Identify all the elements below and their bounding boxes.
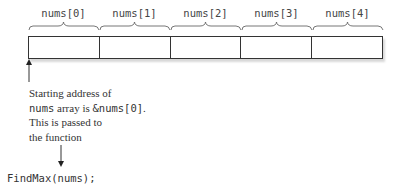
arrow-up-icon: [24, 58, 34, 82]
annotation-line-3: This is passed to: [29, 115, 146, 130]
array-cell-4: [312, 37, 382, 58]
annotation-line-4: the function: [29, 130, 146, 145]
annotation-text: Starting address of nums array is &nums[…: [29, 86, 146, 144]
array-cell-3: [241, 37, 312, 58]
brace-icons: [28, 18, 384, 32]
nums-array: [28, 36, 383, 59]
annotation-period: .: [143, 102, 146, 114]
array-cell-0: [29, 37, 100, 58]
function-call: FindMax(nums);: [7, 172, 96, 184]
annotation-line-2: nums array is &nums[0].: [29, 101, 146, 116]
annotation-text-span: array is: [54, 102, 92, 114]
annotation-line-1: Starting address of: [29, 86, 146, 101]
code-nums: nums: [29, 102, 54, 114]
code-address: &nums[0]: [92, 102, 143, 114]
array-cell-1: [100, 37, 171, 58]
array-cell-2: [171, 37, 242, 58]
arrow-down-icon: [56, 145, 66, 169]
